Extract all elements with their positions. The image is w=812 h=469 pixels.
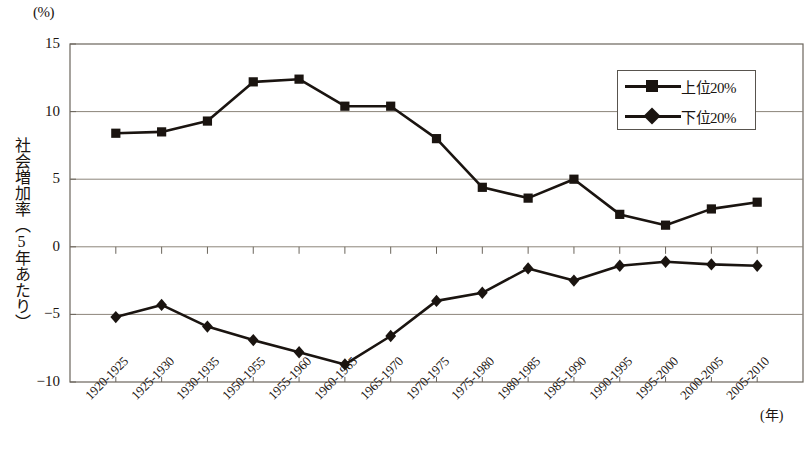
data-point-diamond (477, 287, 488, 299)
legend-item-lower: 下位20% (618, 101, 757, 131)
data-point-square (157, 127, 166, 136)
y-tick-label: 15 (26, 36, 60, 51)
legend-item-upper: 上位20% (618, 71, 757, 101)
data-point-diamond (110, 311, 121, 323)
data-point-square (203, 116, 212, 125)
data-point-square (249, 77, 258, 86)
data-point-square (524, 194, 533, 203)
data-point-diamond (202, 320, 213, 332)
data-point-square (615, 210, 624, 219)
data-point-diamond (752, 260, 763, 272)
data-point-diamond (523, 262, 534, 274)
series-line-lower (116, 262, 757, 365)
legend-marker-diamond-icon (625, 106, 681, 126)
legend-label-upper: 上位20% (681, 76, 736, 97)
data-point-square (294, 75, 303, 84)
data-point-square (569, 175, 578, 184)
data-point-square (386, 102, 395, 111)
legend-label-lower: 下位20% (681, 106, 736, 127)
y-tick-label: 0 (26, 239, 60, 254)
data-point-square (432, 134, 441, 143)
data-point-diamond (156, 299, 167, 311)
data-point-diamond (614, 260, 625, 272)
data-point-square (661, 221, 670, 230)
y-tick-label: 10 (26, 104, 60, 119)
data-point-diamond (706, 258, 717, 270)
data-point-square (111, 129, 120, 138)
data-point-square (340, 102, 349, 111)
chart-legend: 上位20% 下位20% (617, 70, 756, 130)
data-point-diamond (248, 334, 259, 346)
data-point-square (753, 198, 762, 207)
data-point-diamond (660, 256, 671, 268)
y-tick-label: −10 (26, 374, 60, 389)
data-point-square (707, 204, 716, 213)
chart-container: (%) 社会増加率（5年あたり） (年) 151050−5−10 1920-19… (0, 0, 812, 469)
legend-marker-square-icon (625, 76, 681, 96)
y-tick-label: −5 (26, 306, 60, 321)
data-point-diamond (569, 274, 580, 286)
y-tick-label: 5 (26, 171, 60, 186)
data-point-square (478, 183, 487, 192)
